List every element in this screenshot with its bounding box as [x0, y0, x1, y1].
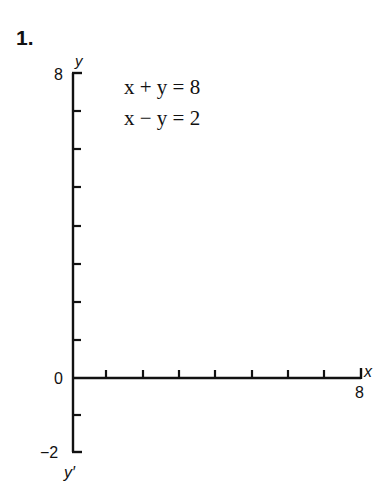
coordinate-plane: y 8 0 −2 y′ x 8: [0, 0, 391, 489]
axes: [72, 73, 361, 452]
y-tick-label-top: 8: [54, 66, 63, 83]
origin-label: 0: [54, 370, 63, 387]
x-tick-label-end: 8: [355, 384, 364, 401]
y-tick-label-bottom: −2: [40, 444, 58, 461]
y-prime-label: y′: [63, 464, 76, 481]
y-axis-label: y: [74, 52, 84, 69]
x-axis-label: x: [363, 363, 373, 380]
